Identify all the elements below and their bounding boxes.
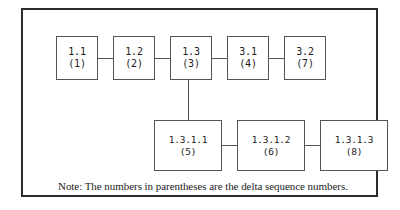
- node-code: 1.3.1.2: [252, 134, 291, 145]
- node-code: 1.3.1.1: [169, 134, 208, 145]
- diagram-frame: 1.1 (1) 1.2 (2) 1.3 (3) 3.1 (4) 3.2 (7) …: [21, 8, 378, 197]
- node-3-2[interactable]: 3.2 (7): [284, 36, 326, 80]
- diagram-page: 1.1 (1) 1.2 (2) 1.3 (3) 3.1 (4) 3.2 (7) …: [0, 0, 400, 210]
- node-1-1[interactable]: 1.1 (1): [56, 36, 98, 80]
- node-3-1[interactable]: 3.1 (4): [227, 36, 269, 80]
- connector-1-1-to-1-2: [98, 58, 113, 59]
- node-1-3-1-2[interactable]: 1.3.1.2 (6): [237, 120, 305, 171]
- node-1-3-1-1[interactable]: 1.3.1.1 (5): [154, 120, 222, 171]
- connector-1-3-1-1-to-1-3-1-2: [222, 145, 237, 146]
- connector-1-3-1-2-to-1-3-1-3: [305, 145, 320, 146]
- node-sequence: (8): [346, 146, 363, 157]
- node-1-3-1-3[interactable]: 1.3.1.3 (8): [320, 120, 388, 171]
- connector-1-3-to-3-1: [212, 58, 227, 59]
- node-code: 3.2: [296, 46, 313, 58]
- node-sequence: (5): [180, 146, 197, 157]
- node-sequence: (6): [263, 146, 280, 157]
- node-sequence: (4): [239, 58, 256, 70]
- node-sequence: (2): [125, 58, 142, 70]
- connector-1-3-to-1-3-1-1: [188, 80, 189, 120]
- node-1-3[interactable]: 1.3 (3): [170, 36, 212, 80]
- node-code: 1.3.1.3: [335, 134, 374, 145]
- connector-1-2-to-1-3: [155, 58, 170, 59]
- connector-3-1-to-3-2: [269, 58, 284, 59]
- node-code: 3.1: [239, 46, 256, 58]
- node-sequence: (1): [68, 58, 85, 70]
- node-code: 1.1: [68, 46, 85, 58]
- node-1-2[interactable]: 1.2 (2): [113, 36, 155, 80]
- node-code: 1.2: [125, 46, 142, 58]
- diagram-note: Note: The numbers in parentheses are the…: [58, 180, 388, 192]
- node-code: 1.3: [182, 46, 199, 58]
- node-sequence: (3): [182, 58, 199, 70]
- node-sequence: (7): [296, 58, 313, 70]
